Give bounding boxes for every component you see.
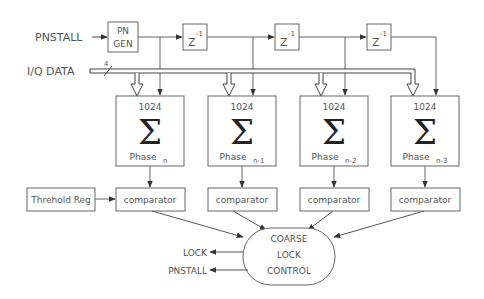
- accumulator-phase-n-3: 1024 Σ Phase n-3: [391, 96, 459, 166]
- svg-text:Z: Z: [280, 36, 288, 49]
- svg-text:Phase: Phase: [220, 152, 247, 162]
- pn-gen-block: PN GEN: [108, 22, 138, 52]
- pn-gen-line1: PN: [117, 26, 129, 36]
- svg-text:CONTROL: CONTROL: [267, 266, 311, 276]
- comparator-2: comparator: [208, 188, 277, 211]
- svg-text:n-1: n-1: [253, 157, 264, 165]
- svg-text:Σ: Σ: [413, 112, 437, 152]
- svg-text:1024: 1024: [139, 102, 162, 112]
- svg-text:n: n: [163, 157, 167, 165]
- accumulator-phase-n-1: 1024 Σ Phase n-1: [208, 96, 276, 166]
- pnstall-input-label: PNSTALL: [35, 31, 83, 44]
- svg-text:COARSE: COARSE: [270, 234, 307, 244]
- svg-text:n-3: n-3: [436, 157, 447, 165]
- svg-text:comparator: comparator: [399, 195, 452, 205]
- svg-text:-1: -1: [288, 30, 295, 38]
- pnstall-output-label: PNSTALL: [168, 266, 207, 276]
- coarse-lock-block-diagram: PNSTALL PN GEN Z -1 Z -1 Z -1 I/Q DATA 4: [0, 0, 484, 299]
- svg-text:Σ: Σ: [138, 112, 162, 152]
- iq-data-label: I/Q DATA: [27, 65, 75, 78]
- bus-width-label: 4: [104, 60, 109, 68]
- svg-text:comparator: comparator: [308, 195, 361, 205]
- svg-text:Threhold Reg: Threhold Reg: [30, 195, 91, 205]
- comparator-1: comparator: [116, 188, 185, 211]
- delay-block-1: Z -1: [183, 24, 207, 50]
- svg-text:Z: Z: [372, 36, 380, 49]
- svg-text:1024: 1024: [231, 102, 254, 112]
- comparator-4: comparator: [391, 188, 460, 211]
- svg-text:Σ: Σ: [322, 112, 346, 152]
- svg-text:-1: -1: [380, 30, 387, 38]
- coarse-lock-control: COARSE LOCK CONTROL: [243, 228, 335, 285]
- svg-text:comparator: comparator: [124, 195, 177, 205]
- svg-text:1024: 1024: [414, 102, 437, 112]
- svg-text:1024: 1024: [323, 102, 346, 112]
- comparator-3: comparator: [300, 188, 369, 211]
- svg-text:LOCK: LOCK: [277, 250, 302, 260]
- svg-text:Σ: Σ: [230, 112, 254, 152]
- pn-gen-line2: GEN: [113, 39, 132, 49]
- lock-output-label: LOCK: [183, 248, 208, 258]
- threshold-register: Threhold Reg: [27, 188, 95, 211]
- accumulator-phase-n: 1024 Σ Phase n: [116, 96, 184, 166]
- svg-text:n-2: n-2: [345, 157, 356, 165]
- svg-text:Phase: Phase: [312, 152, 339, 162]
- svg-text:Z: Z: [188, 36, 196, 49]
- svg-text:Phase: Phase: [130, 152, 157, 162]
- delay-block-2: Z -1: [275, 24, 299, 50]
- svg-text:Phase: Phase: [403, 152, 430, 162]
- accumulator-phase-n-2: 1024 Σ Phase n-2: [300, 96, 368, 166]
- svg-text:-1: -1: [196, 30, 203, 38]
- delay-block-3: Z -1: [367, 24, 391, 50]
- svg-text:comparator: comparator: [216, 195, 269, 205]
